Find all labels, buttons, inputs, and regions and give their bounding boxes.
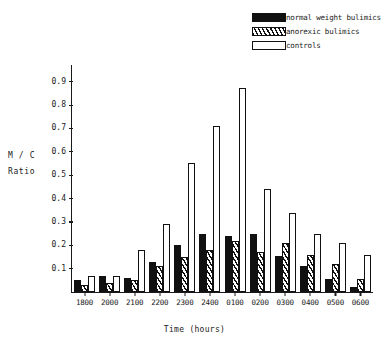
bar	[188, 163, 195, 292]
legend-swatch-solid-icon	[252, 13, 286, 22]
legend-label: anorexic bulimics	[286, 27, 359, 36]
x-axis-tick: 0600	[348, 293, 373, 311]
y-axis-tick	[69, 221, 73, 222]
x-axis-tick-mark	[209, 293, 210, 296]
bar	[364, 255, 371, 292]
bar	[213, 126, 220, 292]
bar	[199, 234, 206, 292]
x-axis-tick-mark	[134, 293, 135, 296]
legend-label: controls	[286, 41, 321, 50]
legend-swatch-hatched-icon	[252, 27, 286, 36]
bar	[106, 283, 113, 292]
x-axis-tick-label: 2200	[151, 298, 168, 307]
x-axis-tick-labels: 1800200021002200230024000100020003000400…	[72, 293, 373, 311]
bar-group	[222, 70, 247, 292]
y-axis-tick-label: 0.6	[40, 148, 66, 156]
bar	[181, 257, 188, 292]
bar	[225, 236, 232, 292]
chart-legend: normal weight bulimics anorexic bulimics…	[252, 11, 389, 53]
legend-item-normal-weight-bulimics: normal weight bulimics	[252, 11, 389, 23]
x-axis-tick-label: 1800	[76, 298, 93, 307]
x-axis-tick-mark	[235, 293, 236, 296]
x-axis-tick-label: 2400	[201, 298, 218, 307]
bar-group	[172, 70, 197, 292]
x-axis-tick-label: 0100	[226, 298, 243, 307]
x-axis-tick: 0200	[248, 293, 273, 311]
bar-group	[97, 70, 122, 292]
x-axis-tick-mark	[159, 293, 160, 296]
y-axis-tick-label: 0.4	[40, 195, 66, 203]
bar	[149, 262, 156, 292]
x-axis-tick-label: 0600	[352, 298, 369, 307]
y-axis-tick-label: 0.9	[40, 78, 66, 86]
x-axis-tick-label: 0300	[277, 298, 294, 307]
x-axis-title: Time (hours)	[0, 325, 389, 334]
bar	[264, 189, 271, 292]
x-axis-tick: 1800	[72, 293, 97, 311]
bar	[131, 280, 138, 292]
legend-swatch-open-icon	[252, 41, 286, 50]
bar	[339, 243, 346, 292]
x-axis-tick-label: 0200	[251, 298, 268, 307]
bar	[138, 250, 145, 292]
x-axis-tick-mark	[84, 293, 85, 296]
bar	[257, 252, 264, 292]
x-axis-tick-mark	[335, 293, 336, 296]
bar	[206, 250, 213, 292]
x-axis-tick: 2200	[147, 293, 172, 311]
bar-group	[273, 70, 298, 292]
x-axis-tick-label: 0400	[302, 298, 319, 307]
bar-groups	[72, 70, 373, 292]
x-axis-tick-mark	[109, 293, 110, 296]
bar	[239, 88, 246, 292]
x-axis-tick: 2000	[97, 293, 122, 311]
bar	[99, 276, 106, 292]
bar	[74, 280, 81, 292]
y-axis-tick	[69, 81, 73, 82]
x-axis-tick: 2100	[122, 293, 147, 311]
bar	[124, 278, 131, 292]
legend-item-anorexic-bulimics: anorexic bulimics	[252, 25, 389, 37]
chart-plot-area: 0.10.20.30.40.50.60.70.80.9 180020002100…	[71, 70, 373, 292]
bar	[314, 234, 321, 292]
x-axis-tick: 2400	[197, 293, 222, 311]
x-axis-tick-mark	[360, 293, 361, 296]
bar	[113, 276, 120, 292]
bar	[81, 285, 88, 292]
x-axis-tick-mark	[260, 293, 261, 296]
bar	[307, 255, 314, 292]
bar-group	[122, 70, 147, 292]
bar	[88, 276, 95, 292]
x-axis-tick-label: 2100	[126, 298, 143, 307]
bar-group	[72, 70, 97, 292]
bar	[250, 234, 257, 292]
y-axis-tick	[69, 151, 73, 152]
y-axis-tick-label: 0.2	[40, 241, 66, 249]
bar-group	[147, 70, 172, 292]
bar	[300, 266, 307, 292]
y-axis-tick	[69, 105, 73, 106]
x-axis-tick-label: 2300	[176, 298, 193, 307]
legend-label: normal weight bulimics	[286, 13, 381, 22]
bar	[350, 287, 357, 292]
bar-group	[298, 70, 323, 292]
x-axis-tick-label: 2000	[101, 298, 118, 307]
x-axis-tick-mark	[184, 293, 185, 296]
bar	[332, 264, 339, 292]
bar	[275, 256, 282, 292]
y-axis-tick-label: 0.7	[40, 124, 66, 132]
y-axis-tick	[69, 128, 73, 129]
bar	[232, 241, 239, 292]
y-axis-tick-label: 0.5	[40, 171, 66, 179]
y-axis-tick-label: 0.8	[40, 101, 66, 109]
y-axis-tick	[69, 245, 73, 246]
bar-group	[248, 70, 273, 292]
x-axis-tick: 0300	[273, 293, 298, 311]
x-axis-tick: 2300	[172, 293, 197, 311]
bar-group	[197, 70, 222, 292]
y-axis-tick	[69, 198, 73, 199]
bar	[163, 224, 170, 292]
bar	[357, 279, 364, 292]
bar	[282, 243, 289, 292]
legend-item-controls: controls	[252, 39, 389, 51]
